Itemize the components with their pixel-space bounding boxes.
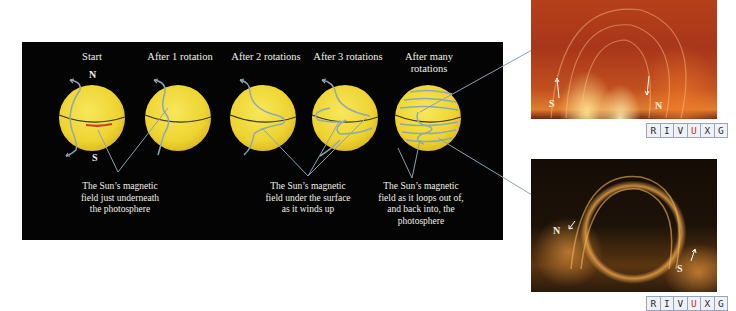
caption-underneath: The Sun’s magnetic field just underneath… xyxy=(68,181,172,216)
sun-after-3-rotations xyxy=(312,79,378,156)
waveband-g: G xyxy=(715,124,728,137)
waveband-x: X xyxy=(701,297,715,310)
photo-coronal-loops-red: S N xyxy=(531,0,717,119)
waveband-r: R xyxy=(647,124,661,137)
caption-loops: The Sun’s magnetic field as it loops out… xyxy=(368,181,474,227)
waveband-u: U xyxy=(688,124,702,137)
photo-coronal-loops-gold: N S xyxy=(531,159,717,292)
photo-top-south-label: S xyxy=(549,98,555,109)
waveband-u: U xyxy=(688,297,702,310)
sun-start xyxy=(59,79,125,156)
waveband-x: X xyxy=(701,124,715,137)
waveband-i: I xyxy=(661,124,675,137)
photo-top-north-label: N xyxy=(655,100,662,111)
waveband-v: V xyxy=(674,297,688,310)
sun-after-1-rotation xyxy=(145,79,211,155)
waveband-v: V xyxy=(674,124,688,137)
sun-after-2-rotations xyxy=(230,79,296,155)
waveband-g: G xyxy=(715,297,728,310)
waveband-r: R xyxy=(647,297,661,310)
waveband-indicator-top: R I V U X G xyxy=(646,123,728,138)
waveband-indicator-bottom: R I V U X G xyxy=(646,296,728,311)
photo-bottom-south-label: S xyxy=(677,263,683,274)
waveband-i: I xyxy=(661,297,675,310)
photo-bottom-north-label: N xyxy=(553,225,560,236)
leader-to-top-photo xyxy=(420,50,532,112)
caption-winds-up: The Sun’s magnetic field under the surfa… xyxy=(258,181,358,216)
